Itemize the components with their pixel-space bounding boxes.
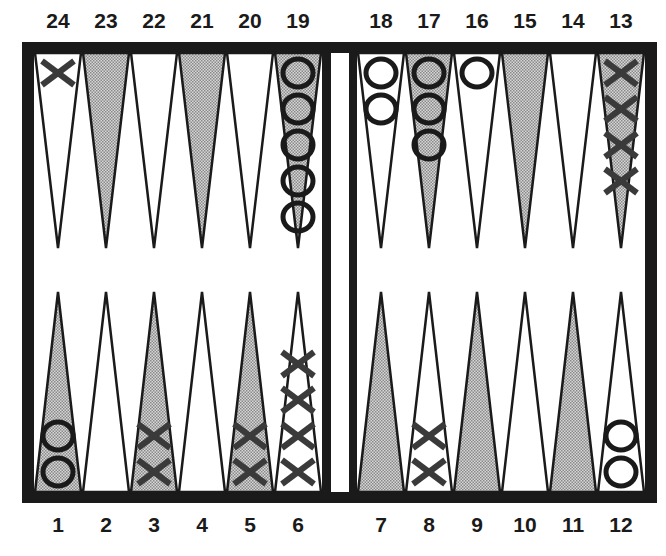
point-label-20: 20 [226,9,274,33]
point-label-21: 21 [178,9,226,33]
point-label-2: 2 [82,513,130,537]
backgammon-board [0,0,666,556]
point-label-14: 14 [549,9,597,33]
point-label-4: 4 [178,513,226,537]
left-field [34,53,322,492]
point-label-3: 3 [130,513,178,537]
right-field [357,53,645,492]
point-label-24: 24 [34,9,82,33]
bar[interactable] [331,53,349,492]
point-label-9: 9 [453,513,501,537]
point-label-19: 19 [274,9,322,33]
point-label-16: 16 [453,9,501,33]
point-label-15: 15 [501,9,549,33]
point-label-10: 10 [501,513,549,537]
point-label-17: 17 [405,9,453,33]
point-label-13: 13 [597,9,645,33]
point-label-1: 1 [34,513,82,537]
point-label-11: 11 [549,513,597,537]
point-label-8: 8 [405,513,453,537]
point-label-22: 22 [130,9,178,33]
point-label-6: 6 [274,513,322,537]
point-label-23: 23 [82,9,130,33]
point-label-12: 12 [597,513,645,537]
point-label-7: 7 [357,513,405,537]
point-label-5: 5 [226,513,274,537]
point-label-18: 18 [357,9,405,33]
